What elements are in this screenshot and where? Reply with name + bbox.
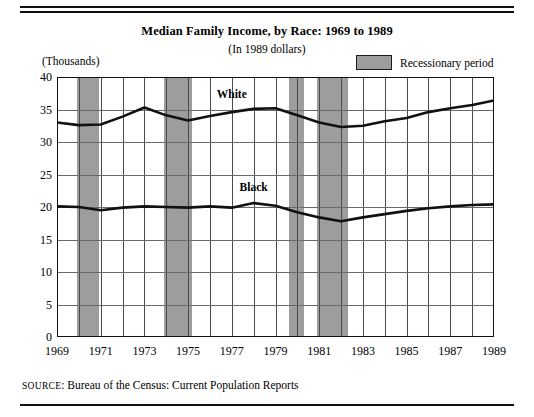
source-text: : Bureau of the Census: Current Populati… bbox=[61, 379, 298, 391]
series-label-black: Black bbox=[240, 181, 268, 193]
x-tick-label: 1981 bbox=[307, 344, 331, 359]
y-tick-label: 40 bbox=[24, 70, 52, 85]
plot-area: WhiteBlack bbox=[57, 77, 494, 337]
y-tick-label: 5 bbox=[24, 297, 52, 312]
y-tick-label: 0 bbox=[24, 330, 52, 345]
chart-page: Median Family Income, by Race: 1969 to 1… bbox=[0, 0, 534, 417]
y-axis-ticks: 0510152025303540 bbox=[22, 77, 52, 337]
top-rule-line-1 bbox=[20, 6, 514, 8]
x-tick-label: 1989 bbox=[482, 344, 506, 359]
source-note: SOURCE: Bureau of the Census: Current Po… bbox=[22, 379, 299, 391]
y-tick-label: 25 bbox=[24, 167, 52, 182]
x-tick-label: 1985 bbox=[395, 344, 419, 359]
y-tick-label: 10 bbox=[24, 265, 52, 280]
x-tick-label: 1977 bbox=[220, 344, 244, 359]
legend: Recessionary period bbox=[356, 55, 494, 70]
source-prefix: SOURCE bbox=[22, 381, 61, 391]
chart-title: Median Family Income, by Race: 1969 to 1… bbox=[0, 24, 534, 39]
x-tick-label: 1973 bbox=[132, 344, 156, 359]
top-rule-line-2 bbox=[20, 11, 514, 13]
x-tick-label: 1987 bbox=[438, 344, 462, 359]
x-tick-label: 1969 bbox=[45, 344, 69, 359]
x-tick-label: 1971 bbox=[89, 344, 113, 359]
bottom-rule bbox=[20, 404, 514, 406]
x-tick-label: 1983 bbox=[351, 344, 375, 359]
y-tick-label: 15 bbox=[24, 232, 52, 247]
y-tick-label: 30 bbox=[24, 135, 52, 150]
plot-frame bbox=[57, 77, 494, 337]
legend-label-recession: Recessionary period bbox=[400, 57, 494, 69]
x-axis-ticks: 1969197119731975197719791981198319851987… bbox=[57, 344, 494, 362]
x-tick-label: 1975 bbox=[176, 344, 200, 359]
y-tick-label: 20 bbox=[24, 200, 52, 215]
series-label-white: White bbox=[217, 88, 247, 100]
chart-subtitle: (In 1989 dollars) bbox=[0, 43, 534, 55]
x-tick-label: 1979 bbox=[264, 344, 288, 359]
recession-swatch-icon bbox=[356, 55, 392, 70]
y-axis-units-label: (Thousands) bbox=[42, 55, 100, 67]
y-tick-label: 35 bbox=[24, 102, 52, 117]
